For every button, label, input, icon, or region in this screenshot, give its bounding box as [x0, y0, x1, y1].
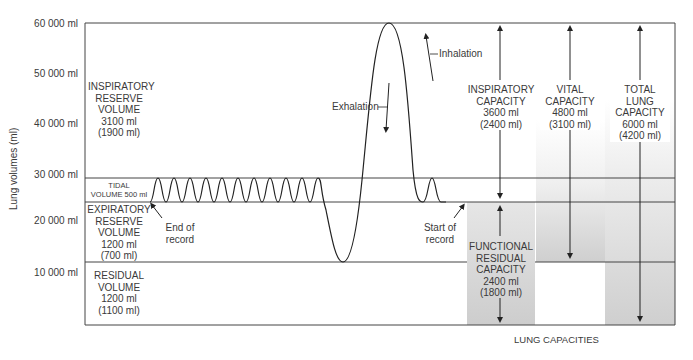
y-tick-30000: 30 000 ml [0, 169, 78, 180]
ic-label: INSPIRATORYCAPACITY3600 ml(2400 ml) [466, 84, 536, 130]
exhalation-arrow [386, 83, 389, 130]
tidal-volume-label: TIDALVOLUME 500 ml [88, 181, 150, 199]
y-tick-10000: 10 000 ml [0, 267, 78, 278]
y-tick-40000: 40 000 ml [0, 118, 78, 129]
lung-capacities-footer: LUNG CAPACITIES [514, 334, 599, 345]
y-tick-20000: 20 000 ml [0, 215, 78, 226]
inhalation-label: Inhalation [439, 48, 482, 60]
irv-label: INSPIRATORYRESERVEVOLUME3100 ml(1900 ml) [88, 81, 150, 139]
end-of-record-label: End ofrecord [160, 222, 200, 245]
exhalation-label: Exhalation [332, 101, 379, 113]
vc-label: VITALCAPACITY4800 ml(3100 ml) [540, 84, 600, 130]
inhalation-arrow [426, 36, 433, 81]
y-tick-60000: 60 000 ml [0, 18, 78, 29]
rv-label: RESIDUALVOLUME1200 ml(1100 ml) [88, 270, 150, 316]
start-of-record-arrow [454, 206, 463, 218]
y-tick-50000: 50 000 ml [0, 68, 78, 79]
end-of-record-arrow [152, 205, 162, 218]
tlc-label: TOTALLUNGCAPACITY6000 ml(4200 ml) [610, 84, 670, 142]
erv-label: EXPIRATORYRESERVEVOLUME1200 ml(700 ml) [86, 204, 152, 262]
frc-label: FUNCTIONALRESIDUALCAPACITY2400 ml(1800 m… [467, 241, 535, 299]
start-of-record-label: Start ofrecord [420, 222, 460, 245]
